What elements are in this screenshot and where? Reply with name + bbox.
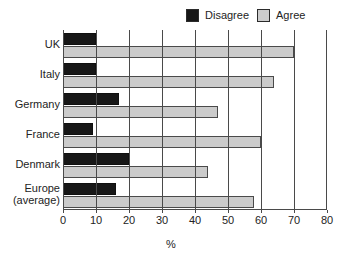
category-label: France xyxy=(0,128,60,140)
legend-label-disagree: Disagree xyxy=(205,10,249,21)
gridline-50 xyxy=(228,30,229,210)
bar-chart: Disagree Agree UKItalyGermanyFranceDenma… xyxy=(0,0,342,265)
bar-disagree xyxy=(63,33,96,45)
x-tick-label: 0 xyxy=(60,214,66,226)
category-label-line1: UK xyxy=(45,38,60,50)
gridline-70 xyxy=(294,30,295,210)
x-tick-mark xyxy=(261,210,262,213)
category-label: Europe(average) xyxy=(0,182,60,206)
bar-disagree xyxy=(63,123,93,135)
x-tick-label: 50 xyxy=(222,214,234,226)
x-tick-label: 60 xyxy=(255,214,267,226)
category-label-line1: Denmark xyxy=(15,158,60,170)
x-axis-title: % xyxy=(0,238,342,250)
category-label: Denmark xyxy=(0,158,60,170)
bar-agree xyxy=(63,166,208,178)
category-label-line1: France xyxy=(26,128,60,140)
axis-spine-left xyxy=(63,30,64,210)
x-tick-mark xyxy=(195,210,196,213)
gridline-20 xyxy=(129,30,130,210)
bar-disagree xyxy=(63,93,119,105)
bar-agree xyxy=(63,46,294,58)
x-tick-mark xyxy=(129,210,130,213)
bar-agree xyxy=(63,76,274,88)
gridline-30 xyxy=(162,30,163,210)
category-label-line1: Germany xyxy=(15,98,60,110)
gridline-40 xyxy=(195,30,196,210)
x-tick-label: 10 xyxy=(90,214,102,226)
category-label: Italy xyxy=(0,68,60,80)
category-label-line2: (average) xyxy=(0,194,60,206)
category-axis-labels: UKItalyGermanyFranceDenmarkEurope(averag… xyxy=(0,30,60,210)
category-label-line1: Europe xyxy=(25,182,60,194)
x-tick-mark xyxy=(327,210,328,213)
x-tick-mark xyxy=(162,210,163,213)
category-label: UK xyxy=(0,38,60,50)
category-label: Germany xyxy=(0,98,60,110)
x-tick-label: 30 xyxy=(156,214,168,226)
chart-legend: Disagree Agree xyxy=(186,6,305,24)
gridline-10 xyxy=(96,30,97,210)
axis-spine-right xyxy=(326,30,327,210)
x-tick-label: 40 xyxy=(189,214,201,226)
plot-area xyxy=(63,30,327,210)
bar-agree xyxy=(63,196,254,208)
x-tick-label: 70 xyxy=(288,214,300,226)
bar-disagree xyxy=(63,63,96,75)
x-tick-mark xyxy=(228,210,229,213)
legend-label-agree: Agree xyxy=(276,10,305,21)
category-label-line1: Italy xyxy=(40,68,60,80)
x-tick-label: 20 xyxy=(123,214,135,226)
x-tick-label: 80 xyxy=(321,214,333,226)
legend-swatch-disagree xyxy=(186,9,199,22)
legend-entry-agree: Agree xyxy=(257,9,305,22)
gridline-60 xyxy=(261,30,262,210)
legend-swatch-agree xyxy=(257,9,270,22)
bar-disagree xyxy=(63,183,116,195)
x-axis-ticks: 01020304050607080 xyxy=(63,210,327,230)
x-tick-mark xyxy=(96,210,97,213)
legend-entry-disagree: Disagree xyxy=(186,9,249,22)
x-tick-mark xyxy=(294,210,295,213)
x-tick-mark xyxy=(63,210,64,213)
